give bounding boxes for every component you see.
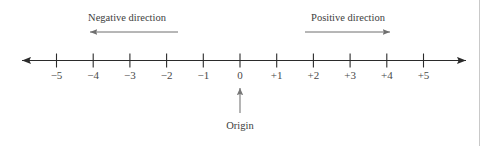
tick-label-+3: +3 [344, 69, 356, 81]
tick-label--2: −2 [161, 69, 173, 81]
tick-label--4: −4 [87, 69, 99, 81]
tick-label-+1: +1 [271, 69, 283, 81]
number-line-diagram: −5 −4 −3 −2 −1 0 +1 +2 +3 +4 +5 Negative… [0, 0, 488, 146]
origin-label: Origin [226, 120, 254, 131]
tick-label--5: −5 [51, 69, 63, 81]
tick-label-0: 0 [237, 69, 243, 81]
tick-label-+5: +5 [418, 69, 430, 81]
negative-direction-label: Negative direction [88, 12, 167, 23]
tick-label--1: −1 [197, 69, 209, 81]
number-line-figure: −5 −4 −3 −2 −1 0 +1 +2 +3 +4 +5 Negative… [0, 0, 488, 146]
positive-direction-label: Positive direction [311, 12, 386, 23]
tick-label-+2: +2 [308, 69, 320, 81]
tick-label-+4: +4 [381, 69, 393, 81]
tick-label--3: −3 [124, 69, 136, 81]
